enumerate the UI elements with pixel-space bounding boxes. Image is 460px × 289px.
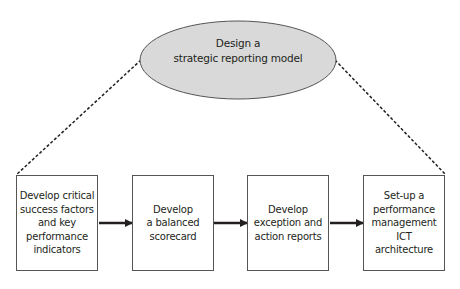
dashed-connector-right (335, 60, 446, 175)
step-box-2: Develop a balanced scorecard (132, 175, 214, 271)
step-4-line: management (364, 216, 444, 230)
step-2-line: a balanced (144, 216, 201, 230)
step-box-4: Set-up a performance management ICT arch… (363, 175, 445, 271)
step-1-line: and key (18, 216, 97, 230)
step-3-line: exception and (252, 216, 324, 230)
step-3-line: Develop (252, 203, 324, 217)
step-box-1: Develop critical success factors and key… (16, 175, 98, 271)
step-4-line: ICT architecture (364, 230, 444, 257)
step-box-3: Develop exception and action reports (247, 175, 329, 271)
step-1-line: indicators (18, 243, 97, 257)
step-3-line: action reports (252, 230, 324, 244)
dashed-connector-left (16, 60, 141, 175)
step-2-line: scorecard (144, 230, 201, 244)
step-2-line: Develop (144, 203, 201, 217)
step-4-line: performance (364, 203, 444, 217)
step-1-line: Develop critical (18, 189, 97, 203)
top-node-line-2: strategic reporting model (140, 51, 336, 66)
step-1-line: performance (18, 230, 97, 244)
step-1-line: success factors (18, 203, 97, 217)
step-4-line: Set-up a (364, 189, 444, 203)
top-node-label: Design a strategic reporting model (140, 36, 336, 66)
top-node-line-1: Design a (140, 36, 336, 51)
